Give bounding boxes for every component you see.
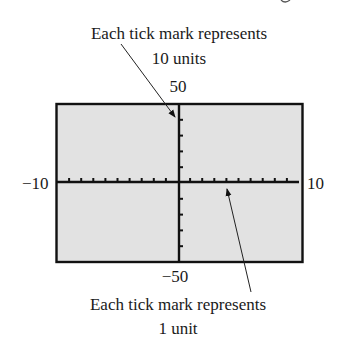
viewing-window-diagram: Each tick mark represents 10 units 50 −1… [0, 0, 339, 353]
cropped-text-fragment [281, 0, 290, 2]
xmin-label: −10 [22, 175, 49, 192]
ymin-label: −50 [162, 268, 189, 285]
bottom-caption-line1: Each tick mark represents [90, 296, 266, 313]
ymax-label: 50 [170, 78, 187, 95]
xmax-label: 10 [307, 175, 324, 192]
top-caption-line2: 10 units [152, 50, 206, 67]
top-caption-line1: Each tick mark represents [91, 25, 267, 42]
bottom-caption-line2: 1 unit [158, 320, 197, 337]
